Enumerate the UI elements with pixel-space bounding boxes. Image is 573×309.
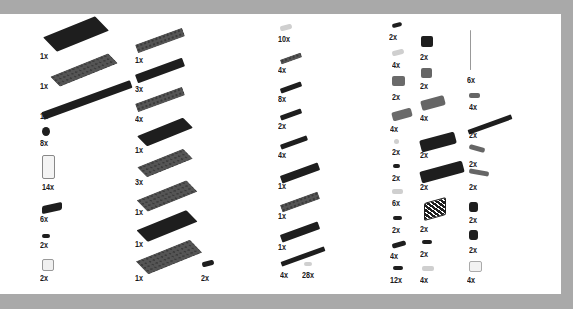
part-qty: 4x [278,65,286,75]
part-wide-plate-dark [136,210,197,242]
part-qty: 2x [392,92,400,102]
part-light-brick [469,261,482,272]
part-qty: 2x [201,273,209,283]
part-wide-plate-grey [136,180,197,212]
part-qty: 4x [135,114,143,124]
part-wide-plate-grey [137,149,193,178]
part-round-tile-dark [42,127,50,136]
part-qty: 2x [469,130,477,140]
part-qty: 2x [278,121,286,131]
part-long-plate-dark [280,135,308,149]
part-large-plate-grey [50,53,118,86]
part-small-tile-dark [202,260,215,268]
part-qty: 3x [135,177,143,187]
part-qty: 2x [420,249,428,259]
part-qty: 2x [392,147,400,157]
part-qty: 8x [278,94,286,104]
part-brick-long-dark [419,161,465,184]
part-qty: 3x [135,84,143,94]
part-qty: 1x [135,273,143,283]
part-qty: 1x [135,145,143,155]
part-qty: 28x [302,270,314,280]
part-qty: 2x [420,150,428,160]
part-tile-clear [280,24,293,32]
part-long-plate-dark [41,80,132,120]
part-brick-grey [421,68,432,78]
part-plate-grey [280,191,320,212]
part-wide-plate-grey [136,240,203,275]
part-window-frame [42,155,55,179]
part-brick-dark [421,36,433,47]
part-qty: 1x [135,55,143,65]
part-qty: 4x [420,275,428,285]
part-qty: 1x [278,242,286,252]
part-qty: 1x [40,111,48,121]
part-plate-dark [280,108,302,120]
part-qty: 2x [420,81,428,91]
part-tile-clear [392,49,405,57]
part-qty: 4x [392,60,400,70]
part-plate-dark [280,81,302,93]
part-plate-dark [280,221,320,242]
part-slope-grey [392,76,405,86]
part-tile-dark [393,216,402,220]
part-tile-grey [469,93,480,98]
part-plate-dark [392,240,407,248]
part-qty: 2x [420,182,428,192]
part-qty: 2x [420,52,428,62]
part-plate-grey [135,28,185,54]
parts-list-panel: 1x 1x 1x 8x 14x 6x 2x 2x 1x 3x 4x 1x 3x … [0,14,561,294]
part-qty: 1x [40,81,48,91]
part-qty: 1x [135,207,143,217]
part-clip-dark [42,234,50,238]
part-wide-plate-dark [137,118,193,147]
part-qty: 4x [280,270,288,280]
part-qty: 4x [390,251,398,261]
part-long-plate-dark [281,246,326,266]
part-brick-long-grey [420,95,446,111]
part-fence-dark [424,197,446,221]
part-qty: 2x [469,245,477,255]
part-qty: 4x [390,124,398,134]
part-bracket-dark [42,202,62,214]
part-qty: 4x [278,150,286,160]
part-qty: 1x [278,211,286,221]
part-round-clear [394,139,399,144]
part-qty: 2x [469,215,477,225]
part-wedge-grey [469,168,490,176]
part-wedge-grey [469,144,486,153]
part-qty: 14x [42,182,54,192]
part-qty: 4x [469,102,477,112]
part-qty: 1x [278,181,286,191]
part-tile-clear [392,189,403,194]
part-qty: 6x [467,75,475,85]
part-qty: 2x [420,224,428,234]
part-qty: 4x [420,113,428,123]
part-qty: 4x [467,275,475,285]
part-qty: 1x [135,239,143,249]
part-qty: 2x [392,173,400,183]
part-plate-grey [280,52,302,64]
part-tile-dark [393,164,400,168]
part-round-brick-dark [469,230,478,240]
part-stud-clear [304,262,312,266]
part-qty: 6x [40,214,48,224]
part-qty: 10x [278,34,290,44]
part-slope-long-grey [391,108,413,122]
part-qty: 12x [390,275,402,285]
part-qty: 2x [469,182,477,192]
part-light-brick [42,259,54,271]
part-qty: 2x [40,273,48,283]
part-qty: 1x [40,51,48,61]
part-round-brick-dark [469,202,478,212]
part-qty: 2x [389,32,397,42]
part-qty: 8x [40,138,48,148]
part-antenna [470,30,471,70]
part-large-plate-dark [43,16,109,51]
part-tile-dark [422,240,432,244]
part-qty: 6x [392,198,400,208]
part-qty: 2x [40,240,48,250]
part-tile-dark [392,22,403,28]
part-qty: 2x [392,225,400,235]
part-tile-dark [393,266,403,270]
